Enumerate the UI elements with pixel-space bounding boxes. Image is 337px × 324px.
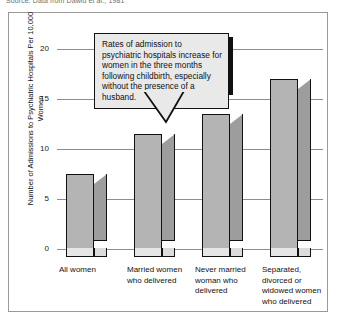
bar-front xyxy=(134,134,162,249)
bar-side xyxy=(162,134,175,241)
bar-base-side xyxy=(162,248,175,257)
bar-front xyxy=(66,174,94,249)
bar-separated-divorced-widowed-delivered xyxy=(270,79,298,249)
bar-married-delivered xyxy=(134,134,162,249)
bar-front xyxy=(202,114,230,249)
bar-side xyxy=(230,114,243,241)
bar-all-women xyxy=(66,174,94,249)
bar-base-front xyxy=(202,248,230,257)
bar-never-married-delivered xyxy=(202,114,230,249)
bar-side xyxy=(298,79,311,241)
category-label-never-married: Never married woman who delivered xyxy=(195,265,255,297)
bar-base-front xyxy=(134,248,162,257)
plot-area: 20 15 10 5 0 Number of Admissions to Psy… xyxy=(9,13,329,313)
y-axis-title: Number of Admissions to Psychiatric Hosp… xyxy=(26,9,45,209)
bar-base-front xyxy=(66,248,94,257)
bar-side xyxy=(94,174,107,241)
bar-base-front xyxy=(270,248,298,257)
ytick-0: 0 xyxy=(31,244,49,253)
chart-frame: 20 15 10 5 0 Number of Admissions to Psy… xyxy=(8,12,328,312)
category-label-separated: Separated, divorced or widowed women who… xyxy=(262,265,324,307)
bar-base-side xyxy=(230,248,243,257)
bar-base-side xyxy=(298,248,311,257)
bar-front xyxy=(270,79,298,249)
category-label-all-women: All women xyxy=(59,265,121,276)
source-note: Source: Data from Dawid et al., 1981 xyxy=(6,0,124,4)
bar-base-side xyxy=(94,248,107,257)
category-label-married: Married women who delivered xyxy=(127,265,189,286)
